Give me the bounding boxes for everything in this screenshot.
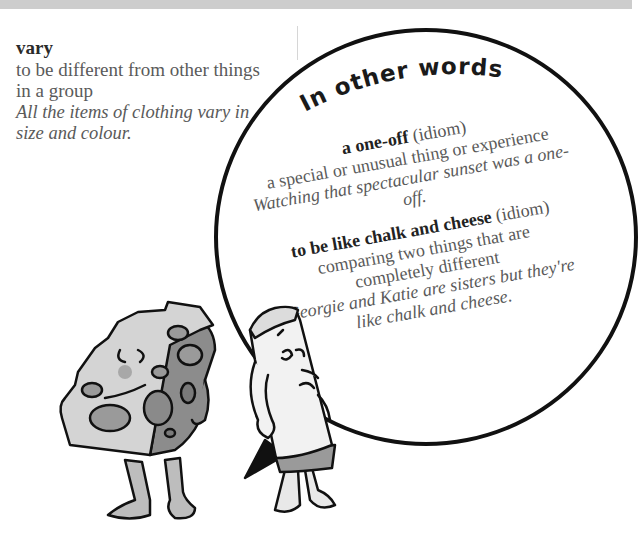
- definition: to be different from other things in a g…: [16, 59, 276, 101]
- dictionary-entry: vary to be different from other things i…: [16, 38, 276, 144]
- headword: vary: [16, 38, 276, 58]
- example-sentence: All the items of clothing vary in size a…: [16, 102, 276, 144]
- column-divider: [297, 26, 298, 60]
- cheese-character: [61, 302, 215, 519]
- top-bar: [0, 0, 632, 9]
